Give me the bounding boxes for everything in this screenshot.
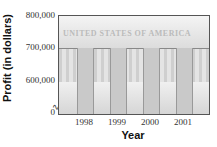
- y-tick-800000: 800,000: [18, 10, 55, 20]
- plot-area: UNITED STATES OF AMERICA: [58, 15, 210, 115]
- x-tick-1998: 1998: [69, 117, 99, 127]
- y-axis-label: Profit (in dollars): [1, 13, 13, 103]
- y-tick-600000: 600,000: [18, 75, 55, 85]
- bar-2001: [176, 48, 193, 114]
- bar-1998: [77, 48, 94, 114]
- x-tick-2000: 2000: [135, 117, 165, 127]
- y-tick-700000: 700,000: [18, 42, 55, 52]
- banner-text: UNITED STATES OF AMERICA: [63, 29, 207, 39]
- bar-1999: [110, 48, 127, 114]
- y-tick-0: 0: [18, 107, 55, 117]
- bar-2000: [143, 48, 160, 114]
- x-tick-2001: 2001: [168, 117, 198, 127]
- x-axis-label: Year: [58, 129, 208, 141]
- x-tick-1999: 1999: [102, 117, 132, 127]
